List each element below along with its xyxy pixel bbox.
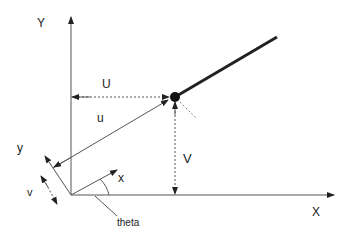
v-dimension-top xyxy=(41,176,48,187)
bold-segment xyxy=(175,37,277,97)
point-marker xyxy=(170,92,180,102)
local-y-axis xyxy=(45,156,71,195)
v-label: v xyxy=(27,186,33,198)
theta-leader xyxy=(95,196,117,216)
u-label: u xyxy=(97,111,104,125)
y-label: y xyxy=(17,141,23,155)
theta-arc xyxy=(100,179,109,195)
local-x-axis xyxy=(71,170,117,195)
u-vector-tail xyxy=(54,158,70,167)
dashed-tail xyxy=(180,102,196,118)
X-axis-label: X xyxy=(312,205,320,219)
u-vector xyxy=(53,100,168,168)
U-label: U xyxy=(102,77,111,91)
vector-diagram: Y X U V u y x v theta xyxy=(0,0,351,237)
x-label: x xyxy=(118,171,124,185)
Y-axis-label: Y xyxy=(37,16,45,30)
theta-label: theta xyxy=(117,217,140,228)
V-label: V xyxy=(183,151,192,166)
